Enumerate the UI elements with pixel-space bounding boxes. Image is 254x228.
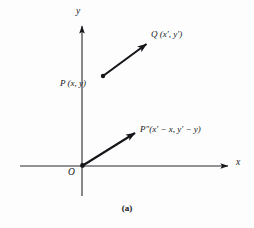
point-origin-dot <box>80 163 85 168</box>
vector-diagram-figure: y x O Q (x′, y′) P (x, y) P″(x′ − x, y′ … <box>0 0 254 228</box>
point-q-label: Q (x′, y′) <box>151 30 182 39</box>
vector-pq-line <box>103 44 147 76</box>
point-p-label: P (x, y) <box>60 79 86 88</box>
x-axis-label: x <box>236 158 240 168</box>
origin-label: O <box>68 168 75 178</box>
point-p-double-prime-label: P″(x′ − x, y′ − y) <box>140 125 201 134</box>
figure-caption: (a) <box>0 203 254 213</box>
y-axis-label: y <box>76 7 80 17</box>
point-p-dot <box>101 74 105 78</box>
vector-p-double-prime-line <box>82 133 135 166</box>
diagram-canvas <box>0 0 254 228</box>
